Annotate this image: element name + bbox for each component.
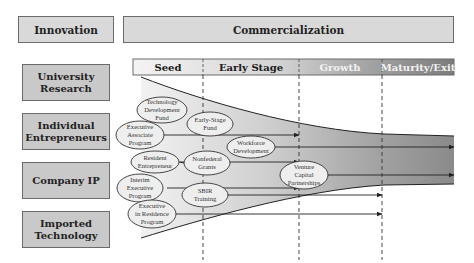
svg-text:Executive: Executive (127, 123, 153, 130)
svg-text:Executive: Executive (139, 202, 165, 209)
svg-text:Program: Program (141, 218, 165, 225)
stage-maturity-exit: Maturity/Exit (381, 62, 456, 73)
program-venture-capital-partnerships: Venture Capital Partnerships (280, 161, 328, 189)
svg-text:Program: Program (129, 139, 153, 146)
svg-text:Nonfederal: Nonfederal (192, 155, 222, 162)
program-technology-development-fund: Technology Development Fund (137, 97, 187, 123)
program-executive-in-residence-program: Executive in Residence Program (128, 200, 176, 228)
svg-text:Entrepreneur: Entrepreneur (138, 162, 173, 169)
svg-text:Early-Stage: Early-Stage (194, 116, 225, 123)
svg-text:Executive: Executive (127, 184, 153, 191)
svg-text:Technology: Technology (146, 98, 178, 105)
program-interim-executive-program: Interim Executive Program (117, 174, 163, 202)
stage-early: Early Stage (219, 62, 283, 73)
svg-text:Venture: Venture (294, 163, 315, 170)
svg-text:Development: Development (144, 106, 180, 113)
stage-growth: Growth (320, 62, 362, 73)
program-early-stage-fund: Early-Stage Fund (187, 112, 233, 136)
svg-text:Partnerships: Partnerships (288, 179, 321, 186)
svg-text:SBIR: SBIR (198, 187, 213, 194)
svg-text:Development: Development (233, 147, 269, 154)
svg-text:Fund: Fund (155, 114, 169, 121)
svg-text:Workforce: Workforce (237, 139, 265, 146)
commercialization-diagram: Seed Early Stage Growth Maturity/Exit Te… (0, 0, 474, 263)
program-executive-associate-program: Executive Associate Program (116, 121, 164, 149)
svg-text:Program: Program (129, 192, 153, 199)
svg-text:Interim: Interim (130, 176, 150, 183)
svg-text:Fund: Fund (203, 124, 217, 131)
svg-text:Training: Training (194, 195, 217, 202)
svg-text:in Residence: in Residence (135, 210, 169, 217)
stage-bar: Seed Early Stage Growth Maturity/Exit (133, 59, 456, 75)
svg-text:Associate: Associate (127, 131, 153, 138)
svg-text:Grants: Grants (198, 163, 216, 170)
program-sbir-training: SBIR Training (182, 183, 228, 207)
program-resident-entrepreneur: Resident Entrepreneur (131, 151, 179, 173)
stage-seed: Seed (155, 62, 182, 73)
program-workforce-development: Workforce Development (227, 136, 275, 158)
svg-text:Capital: Capital (294, 171, 313, 178)
svg-text:Resident: Resident (143, 154, 166, 161)
program-nonfederal-grants: Nonfederal Grants (184, 151, 230, 175)
